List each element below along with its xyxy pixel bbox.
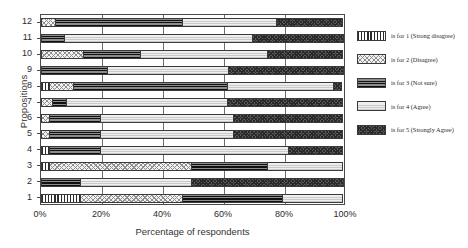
bar-row-8 [41,82,344,91]
pattern-2-swatch [357,54,386,64]
bar-segment-p4-row-10 [140,50,268,59]
plot-area [40,14,345,205]
pattern-5-swatch [357,125,386,135]
x-tick-label-60: 60% [203,209,243,219]
bar-segment-p3-row-12 [55,18,183,27]
bar-segment-p4-row-12 [182,18,277,27]
x-axis-title: Percentage of respondents [40,226,345,237]
bar-segment-p5-row-2 [191,178,344,187]
legend-item-label-5: is for 5 (Strongly Agree) [391,126,454,133]
bar-segment-p3-row-7 [52,98,67,107]
y-tick-label-8: 8 [6,80,32,90]
pattern-1-swatch [357,31,386,41]
bar-segment-p3-row-6 [49,114,101,123]
bar-row-4 [41,146,344,155]
x-tick-label-20: 20% [81,209,121,219]
bar-segment-p5-row-6 [233,114,343,123]
legend: is for 1 (Strong disagree)is for 2 (Disa… [357,30,468,148]
bar-segment-p5-row-5 [233,130,343,139]
y-tick-label-6: 6 [6,112,32,122]
bar-segment-p3-row-2 [41,178,81,187]
bar-segment-p4-row-6 [100,114,234,123]
bar-row-6 [41,114,344,123]
bar-segment-p2-row-1 [80,194,184,203]
bar-segment-p4-row-9 [107,66,229,75]
bar-segment-p2-row-12 [41,18,56,27]
bar-segment-p4-row-4 [100,146,289,155]
legend-item-label-3: is for 3 (Not sure) [391,79,437,86]
bar-segment-p3-row-3 [191,162,267,171]
bar-segment-p3-row-11 [41,34,65,43]
bar-segment-p5-row-9 [228,66,344,75]
y-tick-label-7: 7 [6,96,32,106]
bar-segment-p2-row-10 [41,50,84,59]
x-tick-label-40: 40% [142,209,182,219]
bar-segment-p3-row-8 [73,82,229,91]
y-tick-label-9: 9 [6,64,32,74]
bar-row-2 [41,178,344,187]
bar-row-9 [41,66,344,75]
bar-row-3 [41,162,344,171]
bar-segment-p5-row-7 [227,98,343,107]
bar-segment-p5-row-4 [288,146,343,155]
bar-segment-p4-row-7 [66,98,228,107]
bar-segment-p2-row-8 [49,82,73,91]
bar-row-10 [41,50,344,59]
x-tick-label-0: 0% [20,209,60,219]
legend-item-3[interactable]: is for 3 (Not sure) [357,77,468,88]
bar-segment-p5-row-10 [267,50,343,59]
bar-segment-p5-row-8 [333,82,342,91]
bar-segment-p4-row-5 [100,130,234,139]
legend-item-2[interactable]: is for 2 (Disagree) [357,54,468,65]
y-tick-label-5: 5 [6,128,32,138]
y-tick-label-11: 11 [6,32,32,42]
x-tick-label-100: 100% [325,209,365,219]
pattern-3-swatch [357,78,386,88]
bar-row-7 [41,98,344,107]
bar-segment-p4-row-2 [80,178,193,187]
x-tick-label-80: 80% [264,209,304,219]
bar-segment-p3-row-4 [49,146,101,155]
bar-segment-p2-row-3 [49,162,192,171]
y-tick-label-2: 2 [6,176,32,186]
pattern-4-swatch [357,101,386,111]
legend-item-label-4: is for 4 (Agree) [391,103,431,110]
bar-segment-p3-row-1 [182,194,283,203]
bar-row-5 [41,130,344,139]
y-tick-label-1: 1 [6,192,32,202]
stacked-bar-chart: Propositions Percentage of respondents 1… [0,0,468,248]
bar-segment-p4-row-3 [267,162,343,171]
legend-item-label-2: is for 2 (Disagree) [391,56,438,63]
bar-segment-p1-row-1 [41,194,81,203]
y-tick-label-10: 10 [6,48,32,58]
bar-segment-p3-row-5 [49,130,101,139]
bar-segment-p5-row-12 [276,18,343,27]
bar-row-11 [41,34,344,43]
y-tick-label-3: 3 [6,160,32,170]
bar-segment-p3-row-9 [41,66,108,75]
bar-segment-p4-row-1 [282,194,343,203]
legend-item-label-1: is for 1 (Strong disagree) [391,32,455,39]
legend-item-5[interactable]: is for 5 (Strongly Agree) [357,124,468,135]
y-tick-label-4: 4 [6,144,32,154]
bar-row-1 [41,194,344,203]
legend-item-1[interactable]: is for 1 (Strong disagree) [357,30,468,41]
bar-segment-p4-row-8 [227,82,334,91]
bar-row-12 [41,18,344,27]
legend-item-4[interactable]: is for 4 (Agree) [357,101,468,112]
bar-segment-p3-row-10 [83,50,141,59]
bar-segment-p4-row-11 [64,34,253,43]
bar-segment-p5-row-11 [252,34,344,43]
y-tick-label-12: 12 [6,16,32,26]
